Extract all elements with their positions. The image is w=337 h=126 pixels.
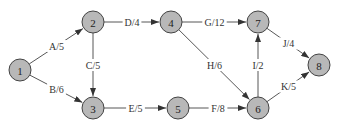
network-diagram: A/5B/6C/5D/4E/5F/8G/12H/6I/2J/4K/5 12345… bbox=[0, 0, 337, 126]
edge-label: G/12 bbox=[205, 17, 225, 28]
edge-label: H/6 bbox=[207, 60, 222, 71]
edge-label: A/5 bbox=[49, 41, 64, 52]
edge-label: I/2 bbox=[252, 60, 263, 71]
node-6: 6 bbox=[247, 97, 269, 119]
node-1: 1 bbox=[9, 59, 31, 81]
node-5: 5 bbox=[167, 97, 189, 119]
edge-label: C/5 bbox=[86, 60, 100, 71]
node-label: 5 bbox=[175, 103, 181, 115]
node-2: 2 bbox=[82, 11, 104, 33]
node-7: 7 bbox=[247, 11, 269, 33]
node-label: 2 bbox=[90, 17, 96, 29]
edge-label: E/5 bbox=[129, 103, 143, 114]
node-3: 3 bbox=[82, 97, 104, 119]
edge-label: D/4 bbox=[125, 17, 140, 28]
node-label: 4 bbox=[168, 17, 174, 29]
node-label: 7 bbox=[255, 17, 261, 29]
node-label: 6 bbox=[255, 103, 261, 115]
node-8: 8 bbox=[308, 54, 330, 76]
node-label: 1 bbox=[17, 65, 23, 77]
node-label: 3 bbox=[90, 103, 96, 115]
edge-label: K/5 bbox=[281, 81, 296, 92]
node-4: 4 bbox=[160, 11, 182, 33]
edge-label: J/4 bbox=[283, 38, 295, 49]
edge-label: B/6 bbox=[49, 84, 63, 95]
edge-label: F/8 bbox=[211, 103, 224, 114]
node-label: 8 bbox=[316, 60, 322, 72]
